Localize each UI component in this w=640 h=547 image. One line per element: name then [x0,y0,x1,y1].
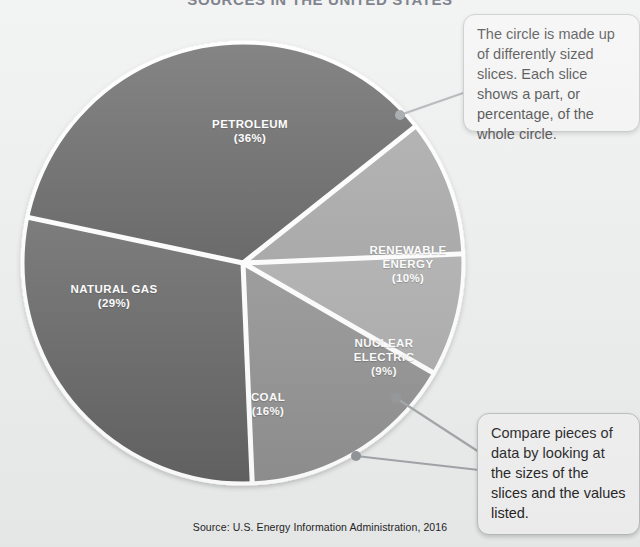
chart-page: SOURCES IN THE UNITED STATES [0,0,640,547]
leader-dot-bottom-a [391,393,401,403]
callout-bottom: Compare pieces of data by looking at the… [477,413,640,535]
leader-line-bottom-a [396,398,479,452]
callout-top: The circle is made up of differently siz… [463,14,640,132]
leader-line-bottom-b [356,456,479,470]
pie-slices-group [21,41,465,485]
source-note: Source: U.S. Energy Information Administ… [0,521,640,533]
leader-dot-bottom-b [351,451,361,461]
leader-line-top [400,92,466,115]
leader-dot-top [395,110,405,120]
